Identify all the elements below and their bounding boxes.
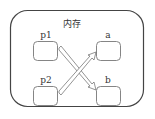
- arrow-p1-to-b: [59, 46, 96, 90]
- node-p1-label: p1: [40, 30, 52, 40]
- node-p2-label: p2: [40, 75, 52, 85]
- node-b-box: [97, 87, 121, 106]
- memory-label: 内存: [63, 18, 81, 29]
- node-p1-box: [34, 42, 58, 61]
- arrow-p2-to-a: [59, 52, 96, 95]
- node-p2-box: [34, 87, 58, 106]
- node-a-box: [97, 42, 121, 61]
- node-a-label: a: [105, 30, 111, 40]
- node-b-label: b: [105, 75, 111, 85]
- memory-diagram: 内存 p1 p2 a b: [0, 0, 155, 119]
